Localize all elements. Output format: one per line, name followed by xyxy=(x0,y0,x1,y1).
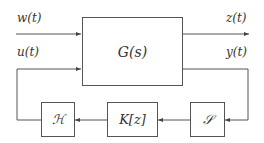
controller-block: K[z] xyxy=(107,102,158,137)
plant-block: G(s) xyxy=(82,17,183,86)
sampler-label: 𝒮 xyxy=(203,112,213,128)
hold-block: ℋ xyxy=(41,102,75,137)
u-input-label: u(t) xyxy=(17,46,39,58)
sampler-block: 𝒮 xyxy=(190,102,225,137)
block-diagram: G(s) ℋ K[z] 𝒮 w(t) u(t) z(t) y(t) xyxy=(0,0,264,143)
controller-label: K[z] xyxy=(119,112,146,127)
z-output-label: z(t) xyxy=(226,12,247,24)
w-input-label: w(t) xyxy=(17,12,41,24)
plant-label: G(s) xyxy=(118,44,147,60)
hold-label: ℋ xyxy=(52,112,65,127)
y-output-label: y(t) xyxy=(226,46,247,58)
hold-to-u-path xyxy=(17,69,41,120)
